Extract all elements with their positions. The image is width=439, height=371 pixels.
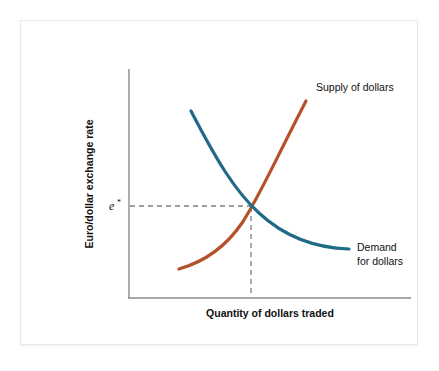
demand-curve-label-line2: for dollars [357, 255, 403, 267]
x-axis-title: Quantity of dollars traded [206, 307, 334, 319]
demand-curve-label-line1: Demand [357, 241, 397, 253]
demand-curve [191, 111, 349, 249]
supply-curve-label: Supply of dollars [316, 81, 394, 93]
supply-demand-chart: Supply of dollars Demand for dollars e *… [21, 21, 417, 344]
figure-card: Supply of dollars Demand for dollars e *… [20, 20, 418, 345]
screenshot-root: Supply of dollars Demand for dollars e *… [0, 0, 439, 371]
equilibrium-rate-star: * [117, 198, 121, 207]
equilibrium-rate-label: e [109, 199, 115, 213]
y-axis-title: Euro/dollar exchange rate [83, 119, 95, 248]
